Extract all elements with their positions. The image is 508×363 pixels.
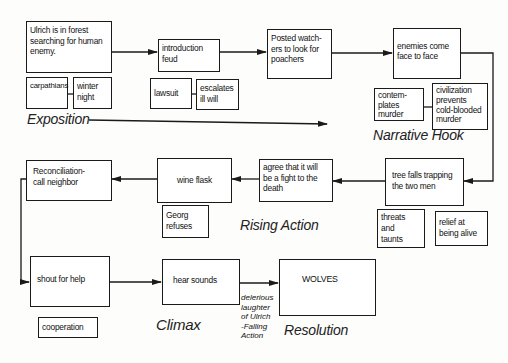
- box-text: agree that it will be a fight to the dea…: [263, 162, 329, 194]
- box-wine-flask: wine flask: [157, 158, 232, 203]
- box-enemies-face-to-face: enemies come face to face: [393, 28, 461, 79]
- label-narrative-hook: Narrative Hook: [373, 127, 464, 143]
- label-resolution: Resolution: [284, 322, 348, 338]
- box-text: contem- plates murder: [378, 91, 420, 120]
- box-reconciliation: Reconciliation- call neighbor: [26, 160, 112, 201]
- label-exposition: Exposition: [27, 111, 90, 127]
- box-hear-sounds: hear sounds: [162, 259, 240, 305]
- box-text: winter night: [77, 81, 108, 102]
- box-posted-watchers: Posted watch- ers to look for poachers: [267, 29, 332, 79]
- note-falling-action: delerious laughter of Ulrich -Falling Ac…: [241, 293, 273, 341]
- box-text: Ulrich is in forest searching for human …: [30, 25, 108, 57]
- box-escalates-ill-will: escalates ill will: [196, 79, 239, 110]
- box-tree-falls: tree falls trapping the two men: [385, 158, 464, 206]
- label-rising-action: Rising Action: [240, 217, 319, 233]
- box-text: hear sounds: [173, 275, 217, 286]
- label-climax: Climax: [156, 316, 201, 333]
- box-text: escalates ill will: [200, 83, 235, 104]
- box-threats-and-taunts: threats and taunts: [377, 209, 425, 248]
- box-georg-refuses: Georg refuses: [162, 205, 209, 238]
- box-cooperation: cooperation: [38, 317, 98, 338]
- box-contemplates-murder: contem- plates murder: [374, 88, 424, 121]
- box-text: relief at being alive: [439, 217, 484, 238]
- box-text: threats and taunts: [381, 212, 421, 244]
- box-shout-for-help: shout for help: [30, 256, 110, 307]
- box-text: Georg refuses: [166, 210, 205, 231]
- box-text: civilization prevents cold-blooded murde…: [436, 86, 484, 125]
- box-civilization-prevents: civilization prevents cold-blooded murde…: [432, 83, 488, 130]
- box-text: Reconciliation- call neighbor: [33, 166, 105, 187]
- box-text: carpathians: [30, 81, 64, 92]
- box-text: tree falls trapping the two men: [392, 170, 452, 191]
- box-relief-at-being-alive: relief at being alive: [435, 211, 488, 246]
- box-agree-fight-to-death: agree that it will be a fight to the dea…: [259, 159, 333, 202]
- box-lawsuit: lawsuit: [150, 78, 192, 109]
- box-wolves: WOLVES: [279, 259, 376, 316]
- box-text: enemies come face to face: [397, 41, 449, 62]
- plot-diagram: Ulrich is in forest searching for human …: [0, 0, 508, 363]
- box-ulrich-in-forest: Ulrich is in forest searching for human …: [26, 21, 112, 73]
- box-introduction-feud: introduction feud: [158, 39, 220, 72]
- box-winter-night: winter night: [73, 77, 112, 109]
- box-text: shout for help: [37, 274, 85, 285]
- box-text: lawsuit: [154, 88, 178, 99]
- box-text: introduction feud: [162, 43, 216, 64]
- box-text: cooperation: [42, 322, 84, 333]
- box-text: Posted watch- ers to look for poachers: [271, 33, 328, 65]
- box-text: wine flask: [177, 175, 212, 186]
- box-text: WOLVES: [302, 274, 375, 285]
- box-carpathians: carpathians: [26, 77, 68, 109]
